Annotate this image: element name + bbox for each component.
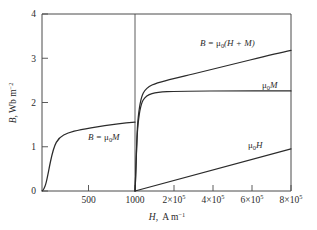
annotation-b-mu0m-left: B = μ0M — [88, 132, 120, 143]
x-ticklabel-500: 500 — [81, 195, 96, 205]
annotation-mu0m-post: M — [269, 80, 278, 90]
x-axis-ticklabels: 500 1000 2×105 4×105 6×105 8×105 — [81, 193, 302, 204]
x-ticklabel-4e5-exp: 5 — [221, 193, 224, 200]
y-axis-title-exp: −2 — [7, 83, 14, 90]
x-ticklabel-6e5-exp: 5 — [260, 193, 263, 200]
x-axis-ticks-left — [89, 185, 136, 191]
annotation-total-pre: B = — [200, 38, 216, 48]
x-ticklabel-2e5-mant: 2×10 — [163, 195, 183, 205]
x-ticklabel-8e5-mant: 8×10 — [280, 195, 300, 205]
x-ticklabel-2e5: 2×105 — [163, 193, 186, 204]
annotation-mu0m-right: μ0M — [262, 80, 278, 91]
x-axis-title-unit: A m — [162, 212, 179, 222]
right-panel-curves — [135, 50, 291, 191]
x-ticklabel-1000: 1000 — [126, 195, 145, 205]
y-ticklabel-0: 0 — [31, 186, 36, 196]
y-axis-title: B, Wb m−2 — [7, 83, 18, 124]
y-ticklabel-1: 1 — [31, 142, 36, 152]
y-axis-title-unit: Wb m — [8, 89, 18, 113]
x-ticklabel-6e5-mant: 6×10 — [241, 195, 261, 205]
x-ticklabel-8e5: 8×105 — [280, 193, 303, 204]
annotation-b-mu0-h-plus-m: B = μ0(H + M) — [200, 38, 255, 49]
x-ticklabel-2e5-exp: 5 — [182, 193, 185, 200]
annotation-mu0h: μ0H — [248, 140, 263, 151]
y-axis-ticklabels: 0 1 2 3 4 — [31, 9, 36, 196]
chart-svg: 0 1 2 3 4 500 1000 2×105 4×105 — [0, 0, 317, 230]
figure-container: 0 1 2 3 4 500 1000 2×105 4×105 — [0, 0, 317, 230]
annotation-total-post: (H + M) — [224, 38, 255, 48]
x-ticklabel-8e5-exp: 5 — [299, 193, 302, 200]
x-axis-title-exp: −1 — [178, 211, 185, 218]
y-ticklabel-3: 3 — [31, 54, 36, 64]
x-axis-title: H, A m−1 — [148, 211, 185, 222]
y-axis-title-main: B, — [8, 115, 18, 123]
annotation-mu0h-post: H — [255, 140, 263, 150]
y-ticklabel-4: 4 — [31, 9, 36, 19]
x-axis-ticks-right — [174, 185, 291, 191]
annotation-left-pre: B = — [88, 132, 104, 142]
x-axis-title-main: H, — [148, 212, 158, 222]
x-ticklabel-4e5: 4×105 — [202, 193, 225, 204]
curve-annotations: B = μ0(H + M) μ0M μ0H B = μ0M — [88, 38, 278, 151]
x-ticklabel-4e5-mant: 4×10 — [202, 195, 222, 205]
y-ticklabel-2: 2 — [31, 98, 36, 108]
curve-mu0m-right — [135, 91, 291, 191]
x-ticklabel-6e5: 6×105 — [241, 193, 264, 204]
curve-mu0h — [135, 149, 291, 191]
y-axis-ticks — [42, 14, 48, 191]
annotation-left-post: M — [111, 132, 120, 142]
